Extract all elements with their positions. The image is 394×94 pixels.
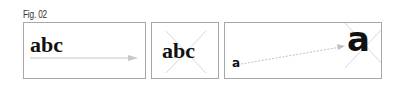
panel-3-large-text: a xyxy=(347,22,370,56)
panel-text-arrow: abc xyxy=(23,22,146,79)
panel-text-cross: abc xyxy=(151,22,219,79)
panel-scale-arrow: a a xyxy=(224,22,382,79)
panel-3-small-text: a xyxy=(232,57,240,69)
panel-2-text: abc xyxy=(162,40,195,62)
figure-label: Fig. 02 xyxy=(23,9,47,20)
panel-1-text: abc xyxy=(30,34,63,56)
